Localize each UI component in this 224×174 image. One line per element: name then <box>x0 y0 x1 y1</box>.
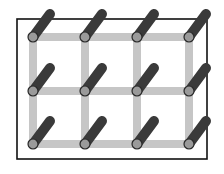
lattice-diagram <box>0 0 224 174</box>
node-cap <box>80 32 90 42</box>
node-cap <box>28 86 38 96</box>
node-cap <box>184 32 194 42</box>
node-cap <box>28 32 38 42</box>
node-cap <box>184 139 194 149</box>
node-cap <box>132 32 142 42</box>
node-cap <box>28 139 38 149</box>
node-cap <box>132 86 142 96</box>
node-cap <box>184 86 194 96</box>
grid-bars <box>33 37 189 144</box>
node-cap <box>80 139 90 149</box>
node-cap <box>132 139 142 149</box>
node-cap <box>80 86 90 96</box>
lattice-diagram-canvas <box>0 0 224 174</box>
